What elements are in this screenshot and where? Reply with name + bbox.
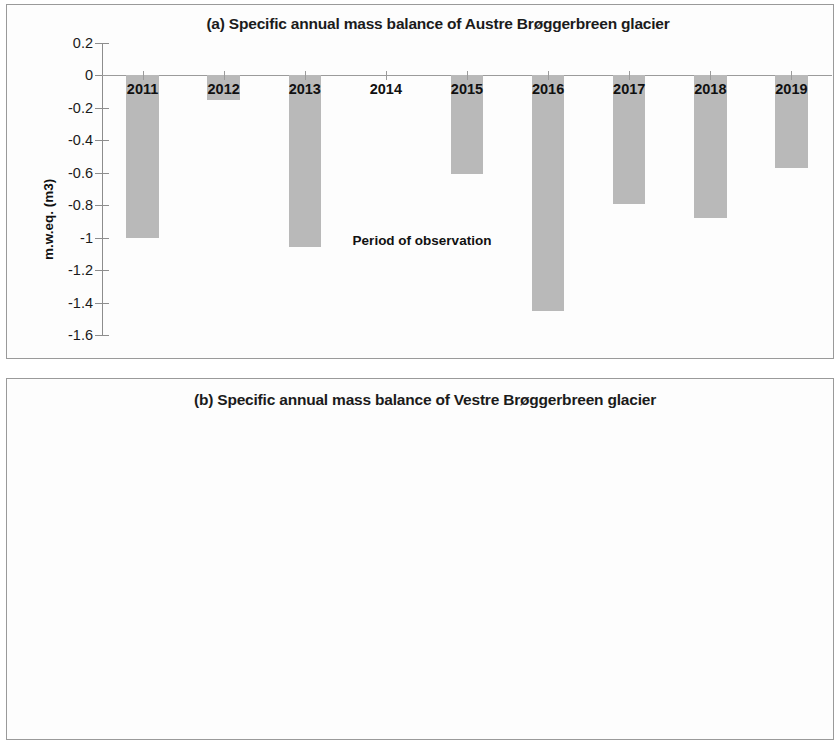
category-label-2017: 2017 <box>613 81 645 97</box>
y-tick <box>95 335 109 336</box>
x-tick <box>467 71 468 80</box>
y-tick <box>95 43 109 44</box>
y-tick <box>95 270 109 271</box>
y-tick <box>95 140 109 141</box>
y-tick <box>95 173 109 174</box>
x-tick <box>224 71 225 80</box>
x-tick <box>548 71 549 80</box>
y-tick <box>95 205 109 206</box>
category-label-2019: 2019 <box>775 81 807 97</box>
category-label-2012: 2012 <box>208 81 240 97</box>
y-tick-label: -1.6 <box>68 327 93 343</box>
x-tick <box>710 71 711 80</box>
y-tick-label: 0.2 <box>73 35 93 51</box>
y-tick-label: -0.6 <box>68 165 93 181</box>
y-tick-label: 0 <box>85 67 93 83</box>
x-tick <box>386 71 387 80</box>
x-tick <box>629 71 630 80</box>
x-tick <box>143 71 144 80</box>
bar-2016-single <box>532 75 564 310</box>
y-tick-label: -1 <box>80 230 93 246</box>
y-tick-label: -0.2 <box>68 100 93 116</box>
y-tick-label: -1.2 <box>68 262 93 278</box>
chart-a-title: (a) Specific annual mass balance of Aust… <box>7 15 833 33</box>
chart-a-annotation: Period of observation <box>353 233 492 248</box>
chart-panel-a: (a) Specific annual mass balance of Aust… <box>6 4 834 359</box>
x-tick <box>305 71 306 80</box>
y-tick <box>95 238 109 239</box>
category-label-2015: 2015 <box>451 81 483 97</box>
category-label-2013: 2013 <box>289 81 321 97</box>
category-label-2011: 2011 <box>127 81 158 97</box>
bar-2013-single <box>289 75 321 247</box>
x-tick <box>791 71 792 80</box>
y-tick-label: -1.4 <box>68 295 93 311</box>
chart-panel-b: (b) Specific annual mass balance of Vest… <box>6 378 834 740</box>
category-label-2018: 2018 <box>694 81 726 97</box>
y-tick-label: -0.4 <box>68 132 93 148</box>
category-label-2016: 2016 <box>532 81 564 97</box>
category-label-2014: 2014 <box>370 81 402 97</box>
chart-a-y-axis <box>102 43 103 335</box>
chart-a-y-axis-label: m.w.eq. (m3) <box>41 179 56 260</box>
y-tick <box>95 108 109 109</box>
y-tick-label: -0.8 <box>68 197 93 213</box>
figure-root: (a) Specific annual mass balance of Aust… <box>0 0 840 745</box>
y-tick <box>95 303 109 304</box>
chart-a-plot-area: 0.20-0.2-0.4-0.6-0.8-1-1.2-1.4-1.6 20112… <box>102 43 832 335</box>
chart-b-title: (b) Specific annual mass balance of Vest… <box>7 391 833 409</box>
bar-2011-single <box>126 75 158 237</box>
